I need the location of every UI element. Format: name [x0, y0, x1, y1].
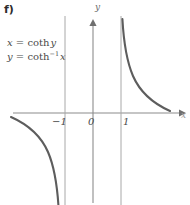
curve-branch-left [11, 117, 58, 205]
y-axis-label: y [95, 2, 100, 12]
x-tick-label-one: 1 [123, 116, 129, 127]
coordinate-plot [0, 0, 190, 205]
x-tick-label-zero: 0 [88, 116, 94, 127]
y-axis-arrowhead [89, 19, 96, 26]
figure-container: f) x = coth y y = coth−1 x −1 0 1 y x [0, 0, 190, 205]
x-tick-label-negative-one: −1 [52, 116, 67, 127]
x-axis-label: x [181, 110, 186, 120]
curve-branch-right [122, 19, 170, 111]
